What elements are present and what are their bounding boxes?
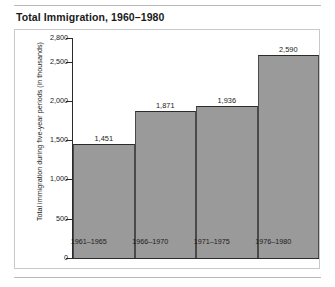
bar-value-label: 1,871 bbox=[136, 101, 196, 110]
x-category-label: 1971–1975 bbox=[181, 237, 243, 246]
y-tick-label: 1,500 bbox=[50, 135, 68, 144]
chart-figure-frame: Total immigration during five-year perio… bbox=[14, 29, 320, 269]
x-category-label: 1966–1970 bbox=[120, 237, 182, 246]
x-axis-baseline bbox=[72, 258, 319, 259]
bar-value-label: 2,590 bbox=[259, 45, 319, 54]
y-tick-label: 2,000 bbox=[50, 96, 68, 105]
bottom-divider-rule bbox=[14, 277, 321, 278]
y-tick-label: 500 bbox=[56, 214, 68, 223]
chart-title: Total Immigration, 1960–1980 bbox=[16, 11, 165, 23]
x-category-label: 1976–1980 bbox=[243, 237, 305, 246]
bar: 1,936 bbox=[196, 106, 258, 258]
bar: 2,590 bbox=[258, 55, 320, 259]
y-tick-label: 0 bbox=[64, 253, 68, 262]
y-axis-title: Total immigration during five-year perio… bbox=[36, 27, 43, 237]
plot-area: 05001,0001,5002,0002,5002,800 1,4511,871… bbox=[72, 38, 318, 258]
y-tick-label: 2,800 bbox=[50, 33, 68, 42]
bar: 1,871 bbox=[135, 111, 197, 258]
top-divider-rule bbox=[14, 5, 321, 6]
x-axis-category-labels: 1961–19651966–19701971–19751976–1980 bbox=[58, 237, 304, 251]
x-category-label: 1961–1965 bbox=[58, 237, 120, 246]
y-tick-label: 1,000 bbox=[50, 174, 68, 183]
bar-series: 1,4511,8711,9362,590 bbox=[73, 38, 319, 258]
bar-value-label: 1,936 bbox=[197, 96, 257, 105]
bar-value-label: 1,451 bbox=[74, 134, 134, 143]
y-tick-label: 2,500 bbox=[50, 57, 68, 66]
